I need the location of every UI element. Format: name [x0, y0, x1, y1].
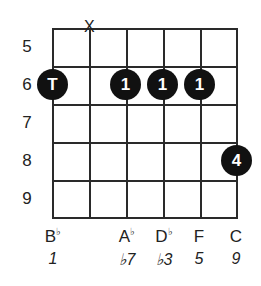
string-line: [89, 28, 91, 218]
fret-line: [52, 28, 238, 30]
string-line: [52, 28, 54, 218]
fret-number: 6: [17, 75, 37, 95]
finger-dot: 1: [184, 69, 215, 100]
fret-line: [52, 104, 238, 106]
string-line: [126, 28, 128, 218]
fret-line: [52, 217, 238, 219]
interval-degree: 1: [38, 250, 68, 268]
fret-number: 8: [17, 151, 37, 171]
fret-line: [52, 142, 238, 144]
string-line: [163, 28, 165, 218]
finger-dot: 1: [110, 69, 141, 100]
string-line: [200, 28, 202, 218]
finger-dot-thumb: T: [37, 69, 68, 100]
fret-line: [52, 180, 238, 182]
finger-dot: 1: [147, 69, 178, 100]
note-name: B♭: [38, 226, 68, 247]
note-name: D♭: [149, 226, 179, 247]
string-line: [236, 28, 238, 218]
note-name: C: [221, 226, 251, 247]
muted-string-icon: X: [84, 18, 95, 36]
finger-dot: 4: [221, 145, 252, 176]
interval-degree: 9: [221, 250, 251, 268]
fret-line: [52, 66, 238, 68]
fret-number: 7: [17, 113, 37, 133]
fret-number: 9: [17, 189, 37, 209]
interval-degree: ♭3: [149, 250, 179, 269]
interval-degree: ♭7: [112, 250, 142, 269]
interval-degree: 5: [184, 250, 214, 268]
fret-number: 5: [17, 37, 37, 57]
note-name: A♭: [112, 226, 142, 247]
fretboard-grid: [52, 28, 236, 218]
note-name: F: [184, 226, 214, 247]
